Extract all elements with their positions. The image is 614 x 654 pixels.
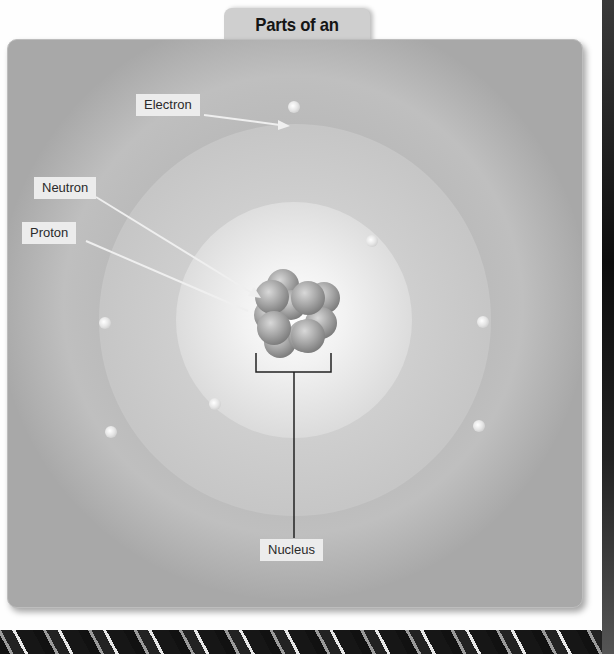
- proton-label: Proton: [22, 222, 76, 244]
- page: Parts of an Atom: [0, 0, 602, 630]
- neutron-label: Neutron: [34, 177, 96, 199]
- nucleus-and-leader-lines: [8, 40, 582, 607]
- nucleus-label: Nucleus: [260, 539, 323, 561]
- nucleus-icon: [254, 269, 340, 358]
- diagram-panel: Electron Neutron Proton Nucleus: [7, 39, 583, 608]
- background-edge: [602, 0, 614, 654]
- electron-label: Electron: [136, 94, 200, 116]
